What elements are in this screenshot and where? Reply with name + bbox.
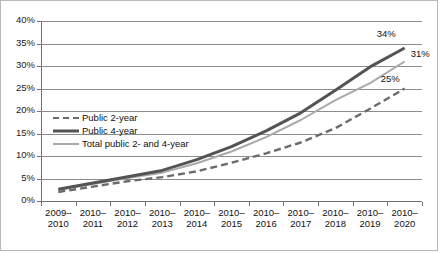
x-axis-tick-label-line: 2010– xyxy=(214,207,249,218)
x-axis-tick-label-line: 2015 xyxy=(214,218,249,229)
gridline xyxy=(41,89,422,90)
x-axis-tick-label-line: 2010– xyxy=(283,207,318,218)
x-axis-tick-label-line: 2009– xyxy=(41,207,76,218)
x-axis-tick xyxy=(249,202,250,206)
x-axis-tick-label: 2010–2019 xyxy=(353,207,388,229)
x-axis-tick-label-line: 2010– xyxy=(387,207,422,218)
x-axis-tick xyxy=(76,202,77,206)
x-axis-tick-label-line: 2014 xyxy=(180,218,215,229)
x-axis-tick xyxy=(422,202,423,206)
y-axis-tick-label: 15% xyxy=(1,127,35,138)
gridline xyxy=(41,179,422,180)
chart-legend: Public 2-year Public 4-year Total public… xyxy=(53,111,189,150)
x-axis-tick xyxy=(214,202,215,206)
legend-item-public-4-year: Public 4-year xyxy=(53,124,189,137)
gridline xyxy=(41,156,422,157)
legend-label: Total public 2- and 4-year xyxy=(82,138,189,149)
x-axis-tick-label-line: 2012 xyxy=(110,218,145,229)
chart-figure: 0%5%10%15%20%25%30%35%40% 2009–20102010–… xyxy=(0,0,438,251)
legend-label: Public 2-year xyxy=(82,112,137,123)
legend-label: Public 4-year xyxy=(82,125,137,136)
series-end-label: 31% xyxy=(411,48,430,59)
x-axis-tick xyxy=(180,202,181,206)
x-axis-tick-label-line: 2011 xyxy=(76,218,111,229)
x-axis-tick-label-line: 2010– xyxy=(76,207,111,218)
x-axis-tick-label-line: 2013 xyxy=(145,218,180,229)
gridline xyxy=(41,66,422,67)
x-axis-tick xyxy=(353,202,354,206)
y-axis-tick-label: 35% xyxy=(1,37,35,48)
y-axis-tick-label: 5% xyxy=(1,172,35,183)
x-axis-tick xyxy=(145,202,146,206)
gridline xyxy=(41,21,422,22)
x-axis-tick-label-line: 2018 xyxy=(318,218,353,229)
x-axis-tick-label: 2010–2016 xyxy=(249,207,284,229)
x-axis-tick-label: 2010–2015 xyxy=(214,207,249,229)
y-axis-tick-label: 20% xyxy=(1,104,35,115)
series-end-label: 34% xyxy=(377,28,396,39)
x-axis-tick-label-line: 2010– xyxy=(110,207,145,218)
x-axis-line xyxy=(41,201,422,202)
y-axis-tick-label: 30% xyxy=(1,59,35,70)
x-axis-tick xyxy=(387,202,388,206)
x-axis-tick xyxy=(283,202,284,206)
x-axis-tick-label: 2010–2020 xyxy=(387,207,422,229)
x-axis-tick-label: 2010–2013 xyxy=(145,207,180,229)
x-axis-tick-label-line: 2019 xyxy=(353,218,388,229)
series-end-label: 25% xyxy=(381,73,400,84)
legend-swatch-dashed-icon xyxy=(53,113,79,123)
y-axis-tick-label: 40% xyxy=(1,14,35,25)
x-axis-tick-label: 2010–2011 xyxy=(76,207,111,229)
y-axis-tick-label: 10% xyxy=(1,149,35,160)
x-axis-tick-label: 2010–2014 xyxy=(180,207,215,229)
legend-swatch-solid-light-icon xyxy=(53,139,79,149)
legend-swatch-solid-dark-icon xyxy=(53,126,79,136)
x-axis-tick-label: 2010–2018 xyxy=(318,207,353,229)
x-axis-tick-label-line: 2010 xyxy=(41,218,76,229)
x-axis-tick-label-line: 2010– xyxy=(145,207,180,218)
x-axis-tick xyxy=(318,202,319,206)
gridline xyxy=(41,44,422,45)
x-axis-tick xyxy=(110,202,111,206)
legend-item-total-public: Total public 2- and 4-year xyxy=(53,137,189,150)
y-axis-tick-label: 25% xyxy=(1,82,35,93)
x-axis-tick-label-line: 2010– xyxy=(318,207,353,218)
x-axis-tick xyxy=(41,202,42,206)
x-axis-tick-label: 2009–2010 xyxy=(41,207,76,229)
y-axis-tick-label: 0% xyxy=(1,194,35,205)
x-axis-tick-label-line: 2010– xyxy=(353,207,388,218)
x-axis-tick-label-line: 2010– xyxy=(249,207,284,218)
x-axis-tick-label-line: 2010– xyxy=(180,207,215,218)
x-axis-tick-label-line: 2016 xyxy=(249,218,284,229)
legend-item-public-2-year: Public 2-year xyxy=(53,111,189,124)
x-axis-tick-label: 2010–2017 xyxy=(283,207,318,229)
x-axis-tick-label: 2010–2012 xyxy=(110,207,145,229)
x-axis-tick-label-line: 2020 xyxy=(387,218,422,229)
x-axis-tick-label-line: 2017 xyxy=(283,218,318,229)
